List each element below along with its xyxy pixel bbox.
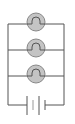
bulb-1-icon	[27, 13, 45, 31]
battery-icon	[27, 96, 45, 115]
bulb-2-icon	[27, 39, 45, 57]
bulb-3-icon	[27, 65, 45, 83]
circuit-diagram	[0, 0, 75, 124]
